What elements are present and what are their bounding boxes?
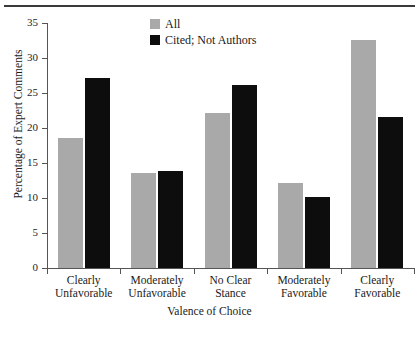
bar-all-3 [278, 183, 303, 268]
x-axis-title: Valence of Choice [0, 305, 419, 317]
x-axis-line [47, 268, 415, 269]
bar-chart-figure: All Cited; Not Authors 05101520253035 Cl… [0, 0, 419, 338]
header-rule [4, 5, 415, 7]
x-category-label-line: Clearly [335, 274, 419, 287]
bar-all-0 [58, 138, 83, 268]
bar-all-4 [351, 40, 376, 268]
plot-area [47, 23, 414, 268]
bar-cited-2 [232, 85, 257, 268]
x-category-label-4: ClearlyFavorable [335, 274, 419, 299]
bar-all-1 [131, 173, 156, 268]
bar-all-2 [205, 113, 230, 268]
bar-cited-3 [305, 197, 330, 268]
x-category-label-line: Favorable [335, 287, 419, 300]
bar-cited-4 [378, 117, 403, 268]
y-tick-label: 0 [0, 262, 38, 273]
bar-cited-0 [85, 78, 110, 268]
y-tick-label: 5 [0, 227, 38, 238]
y-axis-title: Percentage of Expert Comments [12, 24, 24, 224]
bar-cited-1 [158, 171, 183, 268]
